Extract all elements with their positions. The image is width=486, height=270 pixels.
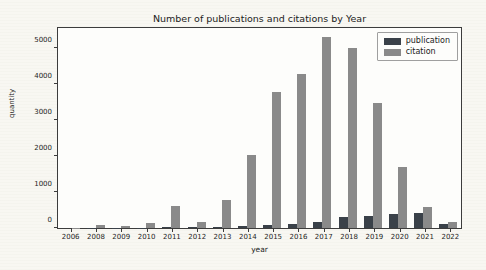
bar-publication-2014 bbox=[238, 226, 247, 228]
bar-publication-2018 bbox=[339, 217, 348, 228]
bar-citation-2019 bbox=[373, 103, 382, 228]
bar-group-2016 bbox=[285, 28, 310, 228]
x-tick-2015 bbox=[273, 228, 274, 232]
y-tick-label-3000: 3000 bbox=[12, 108, 52, 116]
bar-citation-2008 bbox=[96, 225, 105, 228]
y-tick-0 bbox=[54, 227, 58, 228]
bar-citation-2013 bbox=[222, 200, 231, 228]
legend-item-publication: publication bbox=[384, 37, 450, 45]
bar-citation-2016 bbox=[297, 74, 306, 228]
bar-publication-2016 bbox=[288, 224, 297, 228]
y-tick-label-0: 0 bbox=[12, 216, 52, 224]
y-tick-label-4000: 4000 bbox=[12, 72, 52, 80]
x-tick-2019 bbox=[374, 228, 375, 232]
x-tick-2020 bbox=[400, 228, 401, 232]
bar-group-2013 bbox=[209, 28, 234, 228]
bar-citation-2014 bbox=[247, 155, 256, 228]
bar-group-2009 bbox=[108, 28, 133, 228]
chart-figure: Number of publications and citations by … bbox=[0, 0, 486, 270]
bar-citation-2017 bbox=[322, 37, 331, 228]
legend-item-citation: citation bbox=[384, 48, 450, 56]
bar-group-2006 bbox=[58, 28, 83, 228]
bar-citation-2015 bbox=[272, 92, 281, 228]
bar-group-2018 bbox=[335, 28, 360, 228]
x-tick-2006 bbox=[71, 228, 72, 232]
bar-group-2012 bbox=[184, 28, 209, 228]
legend-swatch-citation bbox=[384, 49, 401, 56]
bar-citation-2018 bbox=[348, 48, 357, 228]
bar-publication-2020 bbox=[389, 214, 398, 228]
x-tick-label-2022: 2022 bbox=[435, 233, 465, 241]
bar-group-2017 bbox=[310, 28, 335, 228]
x-tick-2008 bbox=[96, 228, 97, 232]
y-tick-4000 bbox=[54, 83, 58, 84]
x-tick-2012 bbox=[197, 228, 198, 232]
bar-publication-2015 bbox=[263, 225, 272, 228]
x-tick-2010 bbox=[147, 228, 148, 232]
x-tick-2022 bbox=[450, 228, 451, 232]
y-tick-1000 bbox=[54, 191, 58, 192]
x-tick-2014 bbox=[248, 228, 249, 232]
bar-publication-2022 bbox=[439, 224, 448, 228]
plot-area: 010002000300040005000 200620082009201020… bbox=[57, 27, 462, 229]
x-tick-2021 bbox=[425, 228, 426, 232]
bar-group-2010 bbox=[134, 28, 159, 228]
y-tick-5000 bbox=[54, 47, 58, 48]
bar-citation-2009 bbox=[121, 226, 130, 228]
bar-citation-2011 bbox=[171, 206, 180, 229]
x-tick-2011 bbox=[172, 228, 173, 232]
bar-group-2008 bbox=[83, 28, 108, 228]
bar-publication-2011 bbox=[162, 227, 171, 228]
legend-swatch-publication bbox=[384, 38, 401, 45]
bar-citation-2021 bbox=[423, 207, 432, 228]
bar-citation-2020 bbox=[398, 167, 407, 228]
x-tick-2016 bbox=[298, 228, 299, 232]
y-tick-2000 bbox=[54, 155, 58, 156]
bar-publication-2012 bbox=[188, 227, 197, 228]
legend: publicationcitation bbox=[377, 32, 458, 61]
y-tick-label-2000: 2000 bbox=[12, 144, 52, 152]
bar-group-2014 bbox=[234, 28, 259, 228]
bar-publication-2017 bbox=[313, 222, 322, 228]
bar-publication-2021 bbox=[414, 213, 423, 228]
x-tick-2017 bbox=[324, 228, 325, 232]
legend-label-publication: publication bbox=[406, 37, 450, 45]
bar-publication-2019 bbox=[364, 216, 373, 229]
bar-group-2011 bbox=[159, 28, 184, 228]
x-tick-2009 bbox=[121, 228, 122, 232]
legend-label-citation: citation bbox=[406, 48, 436, 56]
y-tick-label-1000: 1000 bbox=[12, 180, 52, 188]
bar-group-2015 bbox=[260, 28, 285, 228]
chart-title: Number of publications and citations by … bbox=[57, 13, 462, 24]
bar-publication-2013 bbox=[213, 227, 222, 228]
y-tick-label-5000: 5000 bbox=[12, 36, 52, 44]
x-tick-2013 bbox=[223, 228, 224, 232]
x-axis-title: year bbox=[57, 245, 462, 254]
y-tick-3000 bbox=[54, 119, 58, 120]
x-tick-2018 bbox=[349, 228, 350, 232]
